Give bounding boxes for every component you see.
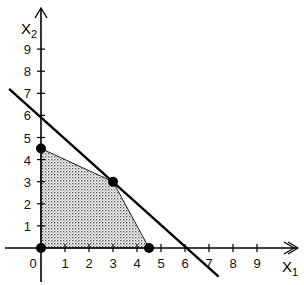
y-tick-label: 3 xyxy=(24,175,31,190)
x-tick-label: 1 xyxy=(61,256,68,271)
x-tick-label: 5 xyxy=(157,256,164,271)
x-tick-label: 2 xyxy=(85,256,92,271)
vertex-point xyxy=(108,177,118,187)
y-tick-label: 9 xyxy=(24,42,31,57)
y-tick-label: 5 xyxy=(24,131,31,146)
y-tick-label: 1 xyxy=(24,219,31,234)
x-tick-label: 3 xyxy=(109,256,116,271)
vertex-point xyxy=(144,243,154,253)
x-tick-label: 0 xyxy=(29,256,36,271)
x-tick-label: 6 xyxy=(181,256,188,271)
vertex-point xyxy=(36,144,46,154)
x-tick-label: 4 xyxy=(133,256,140,271)
x-tick-label: 8 xyxy=(229,256,236,271)
y-axis-label: X2 xyxy=(21,20,37,40)
vertex-point xyxy=(36,243,46,253)
y-tick-label: 8 xyxy=(24,64,31,79)
chart: 0123456789123456789 xyxy=(0,0,304,285)
x-axis-label: X1 xyxy=(282,258,298,278)
y-tick-label: 4 xyxy=(24,153,31,168)
y-tick-label: 2 xyxy=(24,197,31,212)
y-tick-label: 6 xyxy=(24,108,31,123)
y-tick-label: 7 xyxy=(24,86,31,101)
x-tick-label: 9 xyxy=(253,256,260,271)
